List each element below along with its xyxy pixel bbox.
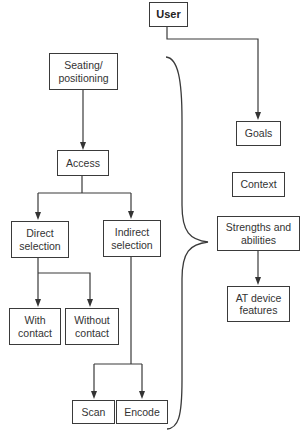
- node-label: Indirect selection: [111, 226, 152, 251]
- node-scan: Scan: [72, 400, 115, 424]
- arrowhead-icon: [91, 391, 97, 399]
- node-label: Access: [66, 157, 100, 170]
- node-label: Context: [240, 178, 276, 191]
- node-at-device-features: AT device features: [227, 286, 290, 322]
- node-label: Direct selection: [19, 227, 60, 252]
- connector-user-goals: [167, 26, 258, 113]
- diagram-canvas: User Seating/ positioning Access Direct …: [0, 0, 307, 436]
- node-access: Access: [57, 150, 109, 176]
- arrowhead-icon: [87, 299, 93, 307]
- node-label: Strengths and abilities: [226, 221, 291, 246]
- arrowhead-icon: [35, 299, 41, 307]
- node-label: Goals: [245, 127, 272, 140]
- node-direct-selection: Direct selection: [11, 221, 69, 258]
- curly-brace: [166, 57, 208, 429]
- node-label: User: [156, 8, 180, 21]
- node-without-contact: Without contact: [65, 308, 119, 345]
- node-context: Context: [232, 172, 285, 197]
- node-label: AT device features: [236, 292, 282, 317]
- node-user: User: [149, 2, 188, 27]
- connector-access-branch: [38, 175, 131, 213]
- arrowhead-icon: [255, 277, 261, 285]
- node-strengths-abilities: Strengths and abilities: [217, 216, 300, 251]
- node-with-contact: With contact: [9, 308, 61, 345]
- connector-direct-branch: [38, 257, 90, 300]
- node-encode: Encode: [116, 400, 168, 424]
- arrowhead-icon: [255, 112, 261, 120]
- node-label: Encode: [124, 406, 160, 419]
- node-seating-positioning: Seating/ positioning: [49, 53, 118, 90]
- node-indirect-selection: Indirect selection: [103, 220, 161, 257]
- arrowhead-icon: [128, 211, 134, 219]
- node-goals: Goals: [236, 121, 281, 146]
- node-label: Seating/ positioning: [58, 59, 108, 84]
- node-label: Scan: [82, 406, 106, 419]
- arrowhead-icon: [35, 212, 41, 220]
- arrowhead-icon: [139, 391, 145, 399]
- node-label: Without contact: [74, 314, 110, 339]
- arrowhead-icon: [80, 142, 86, 150]
- node-label: With contact: [18, 314, 52, 339]
